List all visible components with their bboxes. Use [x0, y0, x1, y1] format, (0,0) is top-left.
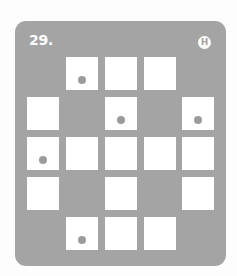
grid-cell-r3-c1[interactable] [27, 137, 59, 170]
puzzle-page: 29. H [0, 0, 237, 276]
grid-cell-r5-c2[interactable] [66, 217, 98, 250]
dot-marker [117, 116, 125, 124]
grid-cell-r1-c4[interactable] [144, 57, 176, 90]
difficulty-badge: H [198, 36, 211, 49]
grid-cell-r2-c3[interactable] [105, 97, 137, 130]
grid-cell-r1-c3[interactable] [105, 57, 137, 90]
grid-cell-r5-c3[interactable] [105, 217, 137, 250]
dot-marker [194, 116, 202, 124]
grid-cell-r2-c5[interactable] [182, 97, 214, 130]
grid-cell-r4-c1[interactable] [27, 177, 59, 210]
grid-cell-r3-c2[interactable] [66, 137, 98, 170]
puzzle-number: 29. [29, 32, 53, 48]
dot-marker [39, 156, 47, 164]
grid-cell-r3-c4[interactable] [144, 137, 176, 170]
grid-cell-r2-c1[interactable] [27, 97, 59, 130]
grid-cell-r1-c2[interactable] [66, 57, 98, 90]
grid-cell-r3-c5[interactable] [182, 137, 214, 170]
grid-cell-r3-c3[interactable] [105, 137, 137, 170]
puzzle-panel: 29. H [15, 21, 226, 266]
grid-cell-r4-c3[interactable] [105, 177, 137, 210]
dot-marker [78, 76, 86, 84]
grid-cell-r4-c5[interactable] [182, 177, 214, 210]
grid-cell-r5-c4[interactable] [144, 217, 176, 250]
dot-marker [78, 236, 86, 244]
